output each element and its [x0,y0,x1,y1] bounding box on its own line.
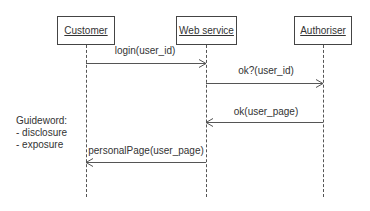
message-label-login: login(user_id) [115,45,176,56]
message-arrows [0,0,370,211]
note-item-disclosure: - disclosure [16,127,67,139]
message-label-personal-page: personalPage(user_page) [88,145,204,156]
message-label-ok-reply: ok(user_page) [234,106,298,117]
note-title: Guideword: [16,115,67,127]
guideword-note: Guideword: - disclosure - exposure [16,115,67,151]
message-label-ok-query: ok?(user_id) [238,65,294,76]
note-item-exposure: - exposure [16,139,67,151]
